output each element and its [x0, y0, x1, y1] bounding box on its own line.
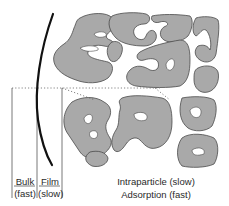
intraparticle-label: Intraparticle (slow) — [100, 176, 212, 187]
particle-cluster-bottom — [64, 96, 218, 168]
particle — [194, 66, 219, 92]
particle — [107, 41, 122, 61]
particle — [109, 13, 156, 46]
adsorption-label: Adsorption (fast) — [100, 189, 212, 200]
particle — [86, 151, 108, 166]
film-boundary-arc — [37, 14, 53, 165]
particle-cluster-top — [54, 13, 219, 93]
bulk-rate-label: (fast) — [13, 188, 37, 199]
film-label: Film — [38, 176, 62, 187]
bulk-label: Bulk — [13, 176, 37, 187]
particle — [193, 17, 219, 62]
particle — [112, 96, 172, 152]
particle — [64, 98, 111, 159]
film-rate-label: (slow) — [38, 188, 62, 199]
particle — [127, 40, 190, 88]
particle — [151, 15, 192, 43]
